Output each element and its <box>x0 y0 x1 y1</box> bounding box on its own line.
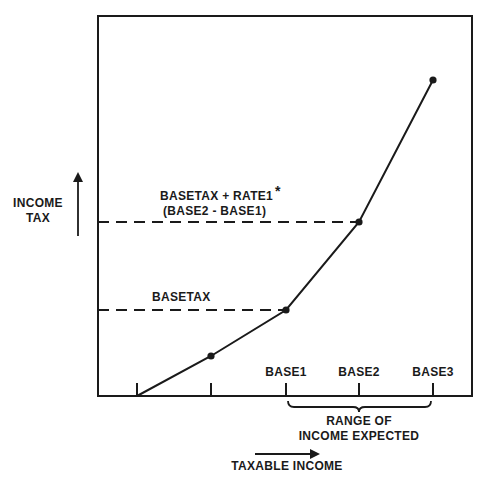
y-axis-label-line2: TAX <box>26 211 50 225</box>
basetax-label: BASETAX <box>152 290 211 304</box>
y-axis-label-line1: INCOME <box>13 196 63 210</box>
data-point-base1 <box>282 306 289 313</box>
basetax2-label-line2: (BASE2 - BASE1) <box>163 204 266 218</box>
up-arrow-icon <box>73 172 83 236</box>
range-bracket <box>288 401 431 412</box>
base3-label: BASE3 <box>412 365 454 379</box>
range-label-line1: RANGE OF <box>326 414 392 428</box>
data-point-base2 <box>355 218 362 225</box>
basetax2-label-line1: BASETAX + RATE1* <box>160 183 281 203</box>
base2-label: BASE2 <box>338 365 380 379</box>
tax-chart: INCOME TAX BASETAX BASETAX + RATE1* (BAS… <box>0 0 480 481</box>
x-axis-label: TAXABLE INCOME <box>231 459 342 473</box>
data-point-1 <box>207 352 214 359</box>
plot-frame <box>98 16 472 396</box>
right-arrow-icon <box>255 449 320 459</box>
data-point-base3 <box>429 76 436 83</box>
x-ticks <box>137 383 433 396</box>
data-points <box>207 76 436 359</box>
range-label-line2: INCOME EXPECTED <box>299 429 420 443</box>
base1-label: BASE1 <box>265 365 307 379</box>
tax-curve-line <box>137 80 433 396</box>
